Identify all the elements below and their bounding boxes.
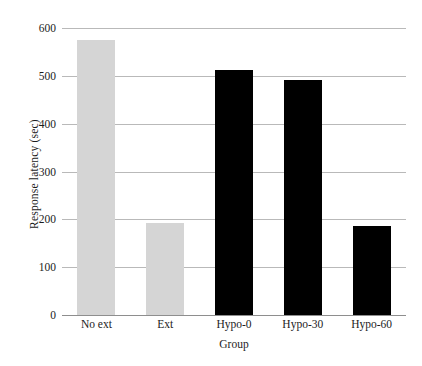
x-tick-label-no-ext: No ext bbox=[62, 318, 131, 330]
gridline-0 bbox=[62, 315, 406, 316]
y-tick-label-0: 0 bbox=[10, 309, 56, 321]
y-tick-label-500: 500 bbox=[10, 70, 56, 82]
gridline-600 bbox=[62, 28, 406, 29]
x-tick-label-ext: Ext bbox=[131, 318, 200, 330]
bar-hypo-30 bbox=[284, 80, 322, 315]
bar-ext bbox=[146, 223, 184, 315]
x-axis-title: Group bbox=[62, 338, 406, 350]
y-tick-label-200: 200 bbox=[10, 213, 56, 225]
bar-hypo-60 bbox=[353, 226, 391, 315]
plot-area bbox=[62, 28, 406, 315]
bar-no-ext bbox=[77, 40, 115, 315]
x-tick-label-hypo-30: Hypo-30 bbox=[268, 318, 337, 330]
x-tick-label-hypo-60: Hypo-60 bbox=[337, 318, 406, 330]
y-tick-label-100: 100 bbox=[10, 261, 56, 273]
y-axis-tick-labels: 0100200300400500600 bbox=[6, 28, 56, 315]
y-tick-label-600: 600 bbox=[10, 22, 56, 34]
bar-chart-figure: Response latency (sec) 01002003004005006… bbox=[0, 0, 422, 366]
x-tick-label-hypo-0: Hypo-0 bbox=[200, 318, 269, 330]
bar-hypo-0 bbox=[215, 70, 253, 315]
y-tick-label-400: 400 bbox=[10, 118, 56, 130]
x-axis-tick-labels: No extExtHypo-0Hypo-30Hypo-60 bbox=[62, 318, 406, 334]
y-tick-label-300: 300 bbox=[10, 166, 56, 178]
